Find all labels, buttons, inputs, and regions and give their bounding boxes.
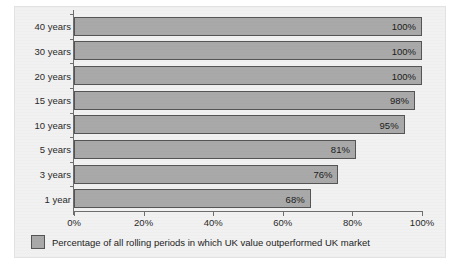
plot-area: 100%100%100%98%95%81%76%68%0%20%40%60%80… xyxy=(74,14,422,211)
bar-value-label: 98% xyxy=(390,95,409,106)
y-axis-tick xyxy=(70,39,74,40)
bar-value-label: 68% xyxy=(286,193,305,204)
legend-swatch-icon xyxy=(31,235,45,249)
y-axis-tick-label: 5 years xyxy=(40,144,71,155)
x-axis-line xyxy=(73,211,423,212)
bar-row: 68% xyxy=(74,189,422,208)
bar: 98% xyxy=(74,91,415,110)
bar-value-label: 76% xyxy=(313,169,332,180)
y-axis-tick-label: 20 years xyxy=(35,70,71,81)
y-axis-tick xyxy=(70,88,74,89)
x-axis-tick-label: 40% xyxy=(204,217,223,228)
y-axis-tick xyxy=(70,137,74,138)
y-axis-tick-label-slot: 20 years xyxy=(15,66,71,85)
bar-row: 81% xyxy=(74,140,422,159)
y-axis-tick-label: 40 years xyxy=(35,21,71,32)
bar-row: 100% xyxy=(74,41,422,60)
y-axis-tick-label-slot: 10 years xyxy=(15,115,71,134)
bar: 95% xyxy=(74,115,405,134)
bar: 100% xyxy=(74,41,422,60)
y-axis-tick xyxy=(70,162,74,163)
chart-panel: 40 years30 years20 years15 years10 years… xyxy=(14,6,446,258)
x-axis-tick xyxy=(283,212,284,216)
y-axis-category-labels: 40 years30 years20 years15 years10 years… xyxy=(15,14,71,211)
y-axis-tick-label-slot: 15 years xyxy=(15,91,71,110)
bar-value-label: 100% xyxy=(392,21,416,32)
x-axis-tick-label: 80% xyxy=(343,217,362,228)
y-axis-tick-label: 30 years xyxy=(35,45,71,56)
y-axis-tick-label-slot: 5 years xyxy=(15,140,71,159)
x-axis-tick-label: 20% xyxy=(134,217,153,228)
x-axis-tick xyxy=(422,212,423,216)
bar-value-label: 100% xyxy=(392,70,416,81)
y-axis-tick-label: 3 years xyxy=(40,169,71,180)
x-axis-tick-label: 0% xyxy=(67,217,81,228)
bar: 100% xyxy=(74,66,422,85)
bar: 100% xyxy=(74,17,422,36)
y-axis-tick-label: 10 years xyxy=(35,119,71,130)
x-axis-tick-label: 100% xyxy=(410,217,434,228)
bar-value-label: 81% xyxy=(331,144,350,155)
legend-label: Percentage of all rolling periods in whi… xyxy=(52,237,370,248)
y-axis-tick-label: 1 year xyxy=(45,193,71,204)
y-axis-tick-label-slot: 30 years xyxy=(15,41,71,60)
x-axis-tick xyxy=(213,212,214,216)
x-axis-tick xyxy=(352,212,353,216)
y-axis-tick-label-slot: 3 years xyxy=(15,165,71,184)
y-axis-tick-label-slot: 1 year xyxy=(15,189,71,208)
x-axis-tick xyxy=(74,212,75,216)
bar-value-label: 100% xyxy=(392,45,416,56)
y-axis-tick xyxy=(70,186,74,187)
bar: 76% xyxy=(74,165,338,184)
chart-legend: Percentage of all rolling periods in whi… xyxy=(31,235,370,249)
bar-row: 95% xyxy=(74,115,422,134)
figure-bar-chart: 40 years30 years20 years15 years10 years… xyxy=(0,0,461,279)
y-axis-tick-label: 15 years xyxy=(35,95,71,106)
bar: 68% xyxy=(74,189,311,208)
y-axis-tick xyxy=(70,113,74,114)
bar-row: 100% xyxy=(74,17,422,36)
x-axis-tick xyxy=(144,212,145,216)
bar-row: 100% xyxy=(74,66,422,85)
y-axis-tick xyxy=(70,14,74,15)
bar-value-label: 95% xyxy=(380,119,399,130)
y-axis-tick-label-slot: 40 years xyxy=(15,17,71,36)
bar: 81% xyxy=(74,140,356,159)
x-axis-tick-label: 60% xyxy=(273,217,292,228)
y-axis-tick xyxy=(70,63,74,64)
bar-row: 98% xyxy=(74,91,422,110)
bar-row: 76% xyxy=(74,165,422,184)
